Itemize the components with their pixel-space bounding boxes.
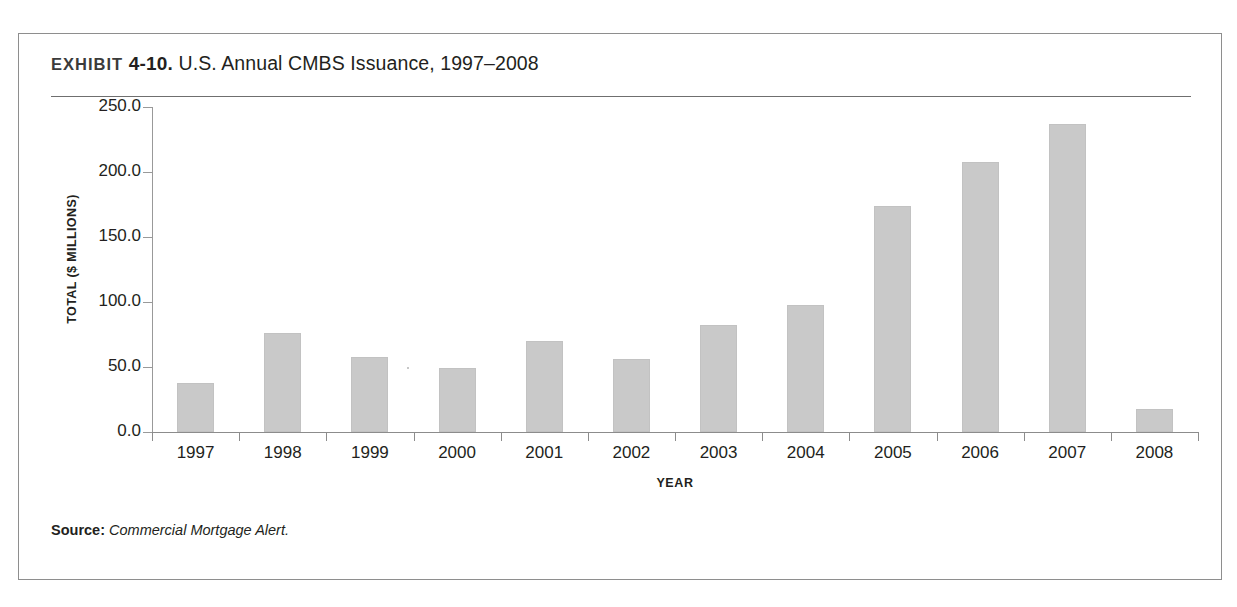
source-label: Source: [51,522,105,538]
y-axis-tick-label: 100.0 [98,291,141,311]
bar [439,368,476,432]
x-axis-tick-label: 2003 [674,443,764,463]
bar [526,341,563,432]
x-axis-tick-mark [152,432,153,441]
plot-area: 0.050.0100.0150.0200.0250.0 199719981999… [152,107,1198,432]
x-axis-tick-mark [1111,432,1112,441]
bar [351,357,388,432]
x-axis-tick-mark [762,432,763,441]
x-axis-tick-mark [239,432,240,441]
x-axis-tick-mark [1198,432,1199,441]
bar [177,383,214,432]
bar [874,206,911,432]
x-axis-tick-label: 2007 [1022,443,1112,463]
x-axis-tick-label: 2005 [848,443,938,463]
y-axis-tick-mark [143,107,152,108]
bars-layer [152,107,1198,432]
y-axis-tick-mark [143,302,152,303]
source-note: Source: Commercial Mortgage Alert. [51,522,289,538]
x-axis-tick-mark [326,432,327,441]
exhibit-frame: EXHIBIT 4-10. U.S. Annual CMBS Issuance,… [18,33,1222,580]
x-axis-tick-label: 1998 [238,443,328,463]
x-axis-tick-mark [1024,432,1025,441]
x-axis-tick-label: 1997 [151,443,241,463]
x-axis-tick-label: 2008 [1109,443,1199,463]
bar [1049,124,1086,432]
source-value: Commercial Mortgage Alert. [109,522,289,538]
x-axis-tick-mark [937,432,938,441]
y-axis-tick-mark [143,172,152,173]
x-axis-tick-mark [849,432,850,441]
x-axis-tick-label: 2004 [761,443,851,463]
bar [962,162,999,432]
bar [787,305,824,432]
x-axis-tick-label: 2002 [586,443,676,463]
bar [1136,409,1173,432]
x-axis-tick-mark [588,432,589,441]
y-axis-tick-label: 200.0 [98,161,141,181]
x-axis-tick-label: 2006 [935,443,1025,463]
x-axis-tick-label: 1999 [325,443,415,463]
bar [264,333,301,432]
y-axis-label: TOTAL ($ MILLIONS) [65,159,79,359]
scan-speck [407,367,409,369]
bar [613,359,650,432]
x-axis-tick-mark [501,432,502,441]
y-axis-tick-label: 50.0 [108,356,141,376]
bar-chart: TOTAL ($ MILLIONS) 0.050.0100.0150.0200.… [19,34,1223,581]
x-axis-tick-label: 2000 [412,443,502,463]
bar [700,325,737,432]
x-axis-label: YEAR [152,476,1198,490]
y-axis-tick-label: 150.0 [98,226,141,246]
y-axis-tick-label: 0.0 [117,421,141,441]
x-axis-tick-mark [675,432,676,441]
y-axis-tick-mark [143,367,152,368]
y-axis-tick-mark [143,432,152,433]
x-axis-tick-label: 2001 [499,443,589,463]
y-axis-tick-mark [143,237,152,238]
x-axis-tick-mark [414,432,415,441]
y-axis-tick-label: 250.0 [98,96,141,116]
